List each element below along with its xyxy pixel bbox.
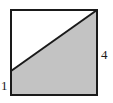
right-side-length-label: 4 <box>101 48 108 61</box>
geometry-figure: 1 4 <box>0 0 113 103</box>
figure-canvas <box>0 0 113 103</box>
left-side-length-label: 1 <box>1 79 8 92</box>
